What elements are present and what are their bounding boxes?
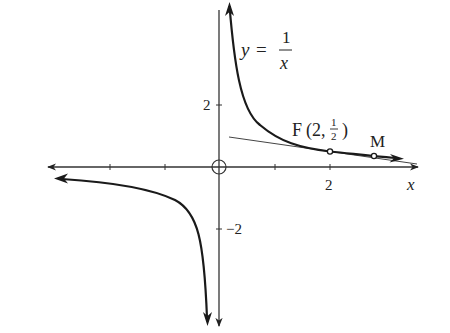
svg-text:F: F [292, 120, 302, 140]
svg-text:(2,: (2, [306, 120, 326, 141]
hyperbola-diagram: 2 2 −2 x y = 1 x F (2, 1 2 ) M [0, 0, 450, 333]
point-M-label: M [370, 132, 385, 151]
y-tick-label-neg2: −2 [226, 221, 242, 237]
point-M [371, 153, 376, 158]
svg-text:x: x [279, 53, 288, 73]
svg-text:=: = [256, 39, 267, 60]
curve-left-branch [62, 179, 207, 318]
y-tick-label-2: 2 [203, 97, 211, 113]
x-axis-label: x [406, 175, 415, 194]
x-tick-label-2: 2 [325, 177, 333, 193]
svg-text:): ) [342, 120, 348, 141]
point-F-label: F (2, 1 2 ) [292, 116, 348, 142]
svg-text:1: 1 [331, 116, 337, 128]
svg-text:2: 2 [331, 130, 337, 142]
svg-text:y: y [239, 39, 250, 60]
point-F [327, 149, 332, 154]
function-label: y = 1 x [239, 28, 292, 73]
svg-text:1: 1 [282, 28, 291, 47]
